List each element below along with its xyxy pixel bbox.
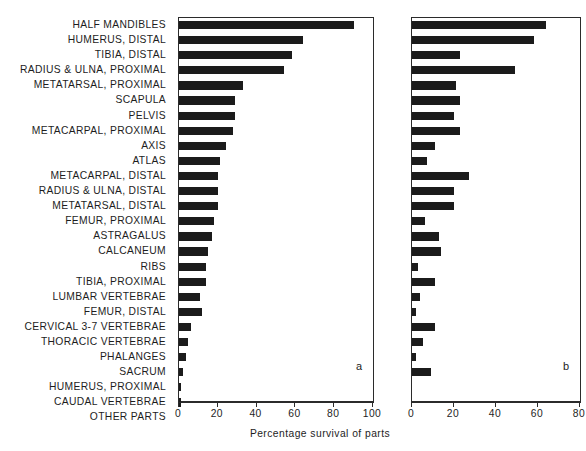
category-label: FEMUR, PROXIMAL xyxy=(0,213,172,228)
category-label: FEMUR, DISTAL xyxy=(0,304,172,319)
bar-row xyxy=(179,244,373,259)
category-label: METATARSAL, PROXIMAL xyxy=(0,77,172,92)
plot-area-b xyxy=(412,18,580,401)
bar xyxy=(412,157,427,165)
bar xyxy=(179,353,186,361)
bar-row xyxy=(412,275,580,290)
x-axis-tick xyxy=(256,402,257,407)
bar-row xyxy=(412,305,580,320)
category-label: TIBIA, PROXIMAL xyxy=(0,274,172,289)
category-label: RADIUS & ULNA, PROXIMAL xyxy=(0,62,172,77)
bar-row xyxy=(412,93,580,108)
bar xyxy=(412,308,416,316)
plot-area-a xyxy=(179,18,373,401)
bar-row xyxy=(179,63,373,78)
bar xyxy=(412,353,416,361)
bar-row xyxy=(412,154,580,169)
bar xyxy=(412,187,454,195)
bar-row xyxy=(179,380,373,395)
bar xyxy=(179,127,233,135)
category-label: SACRUM xyxy=(0,364,172,379)
x-axis-title: Percentage survival of parts xyxy=(250,428,390,439)
x-tick-label: 40 xyxy=(489,408,501,419)
bar-row xyxy=(412,184,580,199)
bar xyxy=(179,338,188,346)
x-axis-tick xyxy=(333,402,334,407)
bar xyxy=(412,247,441,255)
x-axis-tick xyxy=(453,402,454,407)
bar-row xyxy=(412,350,580,365)
category-label: TIBIA, DISTAL xyxy=(0,47,172,62)
x-axis-tick xyxy=(537,402,538,407)
x-tick-label: 40 xyxy=(249,408,261,419)
bar xyxy=(412,81,456,89)
category-label: RADIUS & ULNA, DISTAL xyxy=(0,183,172,198)
bar xyxy=(412,293,420,301)
category-label: HALF MANDIBLES xyxy=(0,17,172,32)
bar-row xyxy=(179,199,373,214)
bar-row xyxy=(412,365,580,380)
bar-row xyxy=(412,48,580,63)
category-label: HUMERUS, DISTAL xyxy=(0,32,172,47)
bar-row xyxy=(179,33,373,48)
bar xyxy=(179,66,284,74)
bar-row xyxy=(179,214,373,229)
bar xyxy=(412,338,423,346)
bar-row xyxy=(412,18,580,33)
x-axis-tick xyxy=(217,402,218,407)
bar xyxy=(179,21,354,29)
category-label-column: HALF MANDIBLESHUMERUS, DISTALTIBIA, DIST… xyxy=(0,17,172,425)
category-label: ASTRAGALUS xyxy=(0,228,172,243)
category-label: CAUDAL VERTEBRAE xyxy=(0,394,172,409)
bar-row xyxy=(179,154,373,169)
bar-row xyxy=(412,124,580,139)
bar-row xyxy=(179,184,373,199)
bar-row xyxy=(179,169,373,184)
bar xyxy=(412,127,460,135)
bar-row xyxy=(179,350,373,365)
x-axis-tick xyxy=(372,402,373,407)
x-axis-tick xyxy=(579,402,580,407)
category-label: LUMBAR VERTEBRAE xyxy=(0,289,172,304)
bar-row xyxy=(179,93,373,108)
x-axis-tick xyxy=(411,402,412,407)
bar xyxy=(412,112,454,120)
x-tick-label: 60 xyxy=(531,408,543,419)
bar-row xyxy=(179,48,373,63)
bar-row xyxy=(179,275,373,290)
category-label: METATARSAL, DISTAL xyxy=(0,198,172,213)
bar xyxy=(412,232,439,240)
bar xyxy=(412,323,435,331)
bar xyxy=(179,278,206,286)
survival-bar-chart-figure: HALF MANDIBLESHUMERUS, DISTALTIBIA, DIST… xyxy=(0,0,586,451)
category-label: THORACIC VERTEBRAE xyxy=(0,334,172,349)
bar xyxy=(412,51,460,59)
bar-row xyxy=(179,365,373,380)
bar-row xyxy=(179,18,373,33)
bar xyxy=(179,112,235,120)
bar xyxy=(179,142,226,150)
bar xyxy=(179,247,208,255)
category-label: RIBS xyxy=(0,259,172,274)
bar-row xyxy=(412,63,580,78)
panel-tag-a: a xyxy=(356,360,362,372)
x-axis-title-wrapper: Percentage survival of parts xyxy=(0,428,586,439)
bar-row xyxy=(179,229,373,244)
bar-row xyxy=(412,335,580,350)
bar xyxy=(179,51,292,59)
bar-row xyxy=(412,244,580,259)
bar xyxy=(412,66,515,74)
bar xyxy=(179,217,214,225)
bar xyxy=(412,36,534,44)
bar-row xyxy=(179,305,373,320)
bar xyxy=(179,172,218,180)
x-tick-label: 80 xyxy=(327,408,339,419)
bar xyxy=(179,263,206,271)
category-label: METACARPAL, DISTAL xyxy=(0,168,172,183)
bar-row xyxy=(412,320,580,335)
bar-row xyxy=(412,109,580,124)
bar xyxy=(179,81,243,89)
x-axis-line-b xyxy=(411,402,581,403)
chart-panel-b xyxy=(411,17,581,402)
category-label: HUMERUS, PROXIMAL xyxy=(0,379,172,394)
